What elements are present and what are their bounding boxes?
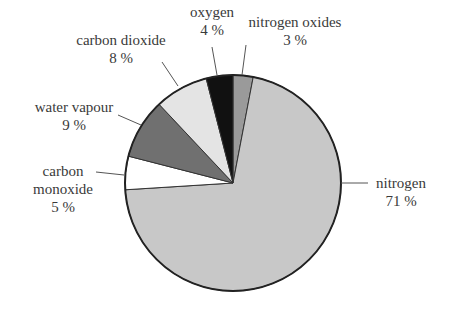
label-oxygen: oxygen 4 % (184, 3, 240, 39)
label-carbon-dioxide: carbon dioxide 8 % (58, 31, 184, 67)
label-nitrogen-oxides-pct: 3 % (236, 31, 354, 49)
label-nitrogen-oxides-name: nitrogen oxides (236, 13, 354, 31)
label-carbon-dioxide-name: carbon dioxide (58, 31, 184, 49)
label-carbon-monoxide-name2: monoxide (25, 180, 101, 198)
label-carbon-monoxide: carbon monoxide 5 % (25, 162, 101, 216)
label-carbon-dioxide-pct: 8 % (58, 49, 184, 67)
label-water-vapour: water vapour 9 % (22, 98, 126, 134)
label-nitrogen-oxides: nitrogen oxides 3 % (236, 13, 354, 49)
label-carbon-monoxide-pct: 5 % (25, 198, 101, 216)
label-water-vapour-pct: 9 % (22, 116, 126, 134)
label-nitrogen-pct: 71 % (368, 192, 434, 210)
label-carbon-monoxide-name1: carbon (25, 162, 101, 180)
leader-nitrogen-oxides (242, 45, 246, 75)
leader-oxygen (212, 47, 217, 75)
label-water-vapour-name: water vapour (22, 98, 126, 116)
label-nitrogen: nitrogen 71 % (368, 174, 434, 210)
label-oxygen-name: oxygen (184, 3, 240, 21)
label-nitrogen-name: nitrogen (368, 174, 434, 192)
label-oxygen-pct: 4 % (184, 21, 240, 39)
